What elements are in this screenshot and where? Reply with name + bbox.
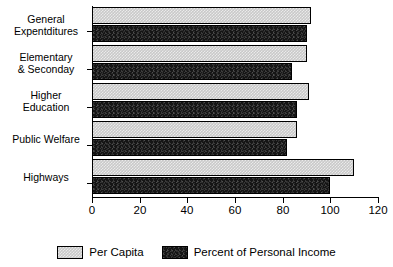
bar-percent-of-personal-income xyxy=(92,139,287,156)
category-label: Elementary & Seconday xyxy=(2,51,90,75)
chart-legend: Per Capita Percent of Personal Income xyxy=(0,242,393,262)
x-tick xyxy=(378,198,379,203)
bar-per-capita xyxy=(92,121,297,138)
bar-group xyxy=(92,83,378,121)
x-tick xyxy=(140,198,141,203)
category-axis: General Expentditures Elementary & Secon… xyxy=(0,6,90,198)
x-tick xyxy=(92,198,93,203)
bar-per-capita xyxy=(92,7,311,24)
x-tick-label: 80 xyxy=(263,204,303,216)
bar-group xyxy=(92,45,378,83)
legend-entry-percent-of-personal-income: Percent of Personal Income xyxy=(162,246,336,259)
legend-swatch-icon xyxy=(57,246,83,259)
legend-swatch-icon xyxy=(162,246,188,259)
category-label: Highways xyxy=(2,171,90,183)
bar-per-capita xyxy=(92,83,309,100)
legend-label: Per Capita xyxy=(89,246,143,258)
bar-percent-of-personal-income xyxy=(92,177,330,194)
x-tick xyxy=(187,198,188,203)
x-tick xyxy=(235,198,236,203)
x-tick xyxy=(330,198,331,203)
category-label: Public Welfare xyxy=(2,133,90,145)
x-tick-label: 60 xyxy=(215,204,255,216)
bar-per-capita xyxy=(92,159,354,176)
x-tick-label: 40 xyxy=(167,204,207,216)
bar-group xyxy=(92,7,378,45)
plot-area xyxy=(92,6,378,198)
x-tick-label: 100 xyxy=(310,204,350,216)
bar-group xyxy=(92,121,378,159)
bar-percent-of-personal-income xyxy=(92,25,307,42)
category-label: General Expentditures xyxy=(2,13,90,37)
bar-group xyxy=(92,159,378,197)
bar-chart: General Expentditures Elementary & Secon… xyxy=(0,0,393,267)
legend-label: Percent of Personal Income xyxy=(194,246,336,258)
legend-entry-per-capita: Per Capita xyxy=(57,246,143,259)
x-tick-label: 20 xyxy=(120,204,160,216)
category-label: Higher Education xyxy=(2,89,90,113)
x-tick-label: 0 xyxy=(72,204,112,216)
bar-percent-of-personal-income xyxy=(92,101,297,118)
bar-percent-of-personal-income xyxy=(92,63,292,80)
x-tick xyxy=(283,198,284,203)
x-tick-label: 120 xyxy=(358,204,393,216)
bar-per-capita xyxy=(92,45,307,62)
